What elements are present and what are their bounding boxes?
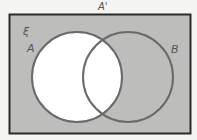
set-a-label: A — [26, 42, 35, 55]
venn-diagram: A' ξ A B — [0, 0, 197, 140]
universal-symbol: ξ — [22, 25, 30, 38]
set-b-label: B — [171, 43, 179, 56]
complement-label: A' — [97, 1, 108, 12]
